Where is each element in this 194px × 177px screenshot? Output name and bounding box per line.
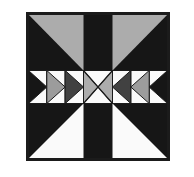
quilt-block-drawing bbox=[26, 12, 170, 161]
quilt-block bbox=[26, 12, 170, 161]
page-background bbox=[0, 0, 194, 177]
